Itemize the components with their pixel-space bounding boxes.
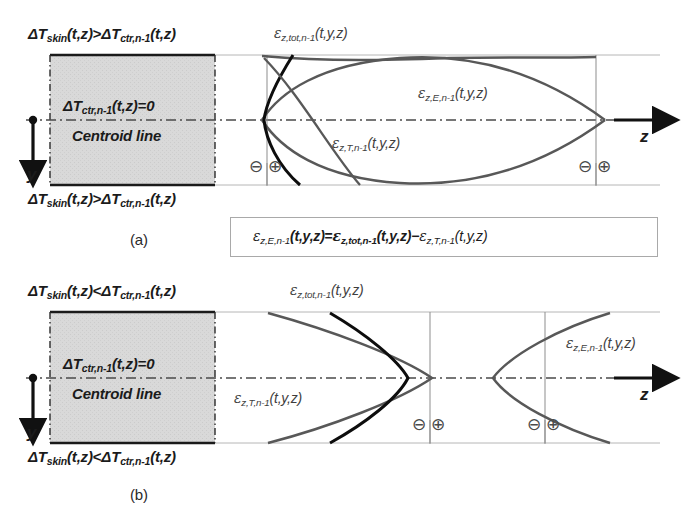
panel-b-sign-plus-left: ⊕ bbox=[431, 416, 445, 433]
panel-a-sign-plus-left: ⊕ bbox=[268, 158, 282, 175]
panel-b-box-equation: ΔTctr,n-1(t,z)=0 bbox=[63, 356, 154, 373]
panel-a-top-condition: ΔTskin(t,z)>ΔTctr,n-1(t,z) bbox=[28, 26, 176, 43]
panel-a-centroid-label: Centroid line bbox=[72, 128, 161, 143]
figure-canvas: ΔTskin(t,z)>ΔTctr,n-1(t,z) ΔTctr,n-1(t,z… bbox=[0, 0, 683, 531]
panel-a-sign-minus-left: ⊖ bbox=[249, 158, 263, 175]
panel-a-sign-plus-right: ⊕ bbox=[597, 158, 611, 175]
panel-a-curve-eps-tot-lens-bottom bbox=[262, 120, 605, 184]
panel-b-graphics bbox=[26, 312, 660, 444]
panel-b-top-condition: ΔTskin(t,z)<ΔTctr,n-1(t,z) bbox=[28, 283, 176, 300]
panel-a-bottom-condition: ΔTskin(t,z)>ΔTctr,n-1(t,z) bbox=[28, 191, 176, 208]
panel-b-sign-minus-left: ⊖ bbox=[412, 416, 426, 433]
panel-a-curve-label-eps-E: εz,E,n-1(t,y,z) bbox=[418, 86, 488, 103]
panel-a-z-axis-label: z bbox=[640, 128, 648, 145]
panel-a-graphics bbox=[26, 55, 660, 186]
panel-b-sign-plus-right: ⊕ bbox=[546, 416, 560, 433]
panel-a-curve-label-eps-T: εz,T,n-1(t,y,z) bbox=[332, 136, 400, 153]
panel-a-curve-label-eps-tot: εz,tot,n-1(t,y,z) bbox=[274, 26, 348, 43]
panel-b-bottom-condition: ΔTskin(t,z)<ΔTctr,n-1(t,z) bbox=[28, 449, 176, 466]
panel-b-curve-label-eps-T: εz,T,n-1(t,y,z) bbox=[234, 391, 302, 408]
panel-a-sign-minus-right: ⊖ bbox=[578, 158, 592, 175]
panel-a-y-axis-label: y bbox=[27, 166, 36, 183]
panel-a-caption: (a) bbox=[130, 232, 148, 247]
panel-b-caption: (b) bbox=[130, 487, 148, 502]
panel-b-z-axis-label: z bbox=[640, 386, 648, 403]
panel-b-curve-label-eps-tot: εz,tot,n-1(t,y,z) bbox=[290, 283, 364, 300]
panel-a-box-equation: ΔTctr,n-1(t,z)=0 bbox=[63, 98, 154, 115]
panel-b-y-axis-label: y bbox=[27, 424, 36, 441]
panel-b-sign-minus-right: ⊖ bbox=[527, 416, 541, 433]
panel-b-curve-label-eps-E: εz,E,n-1(t,y,z) bbox=[566, 336, 636, 353]
panel-b-centroid-label: Centroid line bbox=[72, 386, 161, 401]
definition-equation-text: εz,E,n-1(t,y,z)=εz,tot,n-1(t,y,z)−εz,T,n… bbox=[253, 229, 487, 246]
